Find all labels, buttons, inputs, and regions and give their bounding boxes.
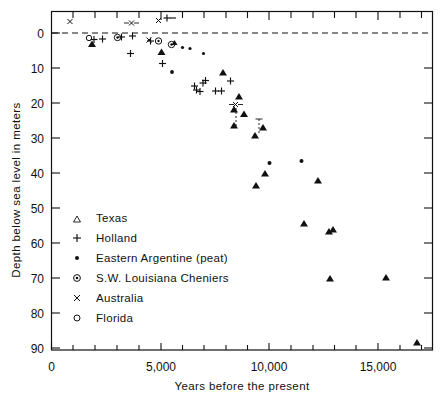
y-axis-ticks-right: [424, 68, 433, 348]
y-tick-label-90: 90: [31, 342, 45, 356]
x-tick-label-10000: 10,000: [251, 360, 288, 374]
open-triangle-icon: [74, 216, 81, 222]
y-tick-label-20: 20: [31, 97, 45, 111]
plus-icon: [73, 234, 81, 242]
y-tick-label-80: 80: [31, 307, 45, 321]
dot-icon: [75, 256, 79, 260]
legend-label-holland: Holland: [96, 232, 137, 244]
legend-label-florida: Florida: [96, 312, 134, 324]
legend-item-australia: Australia: [74, 292, 144, 304]
legend-label-australia: Australia: [96, 292, 144, 304]
open-circle-icon: [74, 315, 80, 321]
y-tick-label-50: 50: [31, 202, 45, 216]
legend-item-eastern-argentine: Eastern Argentine (peat): [75, 252, 228, 264]
y-tick-label-10: 10: [31, 62, 45, 76]
y-tick-label-40: 40: [31, 167, 45, 181]
y-axis-ticks-left: [52, 33, 61, 348]
circled-dot-icon: [74, 275, 81, 282]
x-tick-label-15000: 15,000: [360, 360, 397, 374]
legend-item-texas: Texas: [74, 212, 128, 224]
x-axis-title: Years before the present: [174, 380, 310, 392]
x-tick-label-0: 0: [48, 360, 55, 374]
legend: Texas Holland Eastern Argentine (peat) S…: [73, 212, 229, 324]
x-icon: [74, 295, 80, 301]
x-axis-ticks-top: [73, 12, 422, 21]
legend-label-eastern-argentine: Eastern Argentine (peat): [96, 252, 228, 264]
legend-label-texas: Texas: [96, 212, 128, 224]
legend-item-cheniers: S.W. Louisiana Cheniers: [74, 272, 229, 284]
x-tick-label-5000: 5,000: [146, 360, 176, 374]
series-australia-markers: [68, 18, 239, 107]
y-tick-label-30: 30: [31, 132, 45, 146]
legend-label-cheniers: S.W. Louisiana Cheniers: [96, 272, 229, 284]
y-tick-label-60: 60: [31, 237, 45, 251]
y-tick-label-0: 0: [37, 27, 44, 41]
y-tick-label-70: 70: [31, 272, 45, 286]
x-axis-ticks-bottom: [52, 343, 422, 350]
legend-item-florida: Florida: [74, 312, 134, 324]
sea-level-chart: 0 10 20 30 40 50 60 70 80 90 0 5,000 10,…: [0, 0, 442, 396]
legend-item-holland: Holland: [73, 232, 137, 244]
y-axis-title: Depth below sea level in meters: [10, 102, 22, 277]
series-cheniers-markers: [114, 34, 174, 47]
